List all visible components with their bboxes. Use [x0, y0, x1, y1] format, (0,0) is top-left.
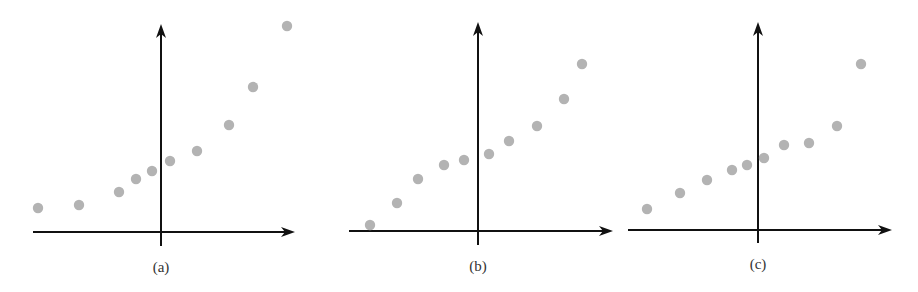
data-point [282, 21, 292, 31]
data-point [559, 94, 569, 104]
panel-label: (a) [153, 259, 170, 276]
panel-a: (a) [33, 21, 295, 276]
data-point [577, 59, 587, 69]
data-point [532, 121, 542, 131]
data-point [832, 121, 842, 131]
data-point [675, 188, 685, 198]
data-point [459, 155, 469, 165]
data-point [248, 82, 258, 92]
data-point [131, 174, 141, 184]
data-point [224, 120, 234, 130]
data-point [114, 187, 124, 197]
panel-label: (c) [750, 256, 767, 273]
scatter-figure: (a)(b)(c) [0, 0, 918, 292]
data-point [856, 59, 866, 69]
data-point [439, 160, 449, 170]
data-point [759, 153, 769, 163]
figure: (a)(b)(c) [0, 0, 918, 292]
data-point [779, 140, 789, 150]
data-point [392, 198, 402, 208]
data-point [365, 220, 375, 230]
data-point [804, 138, 814, 148]
data-point [742, 160, 752, 170]
data-point [642, 204, 652, 214]
panel-label: (b) [469, 258, 487, 275]
data-point [165, 156, 175, 166]
data-point [504, 136, 514, 146]
data-point [147, 166, 157, 176]
panel-b: (b) [349, 22, 613, 275]
panel-c: (c) [628, 22, 892, 273]
data-point [74, 200, 84, 210]
data-point [413, 174, 423, 184]
data-point [702, 175, 712, 185]
data-point [484, 149, 494, 159]
data-point [33, 203, 43, 213]
data-point [727, 165, 737, 175]
data-point [192, 146, 202, 156]
